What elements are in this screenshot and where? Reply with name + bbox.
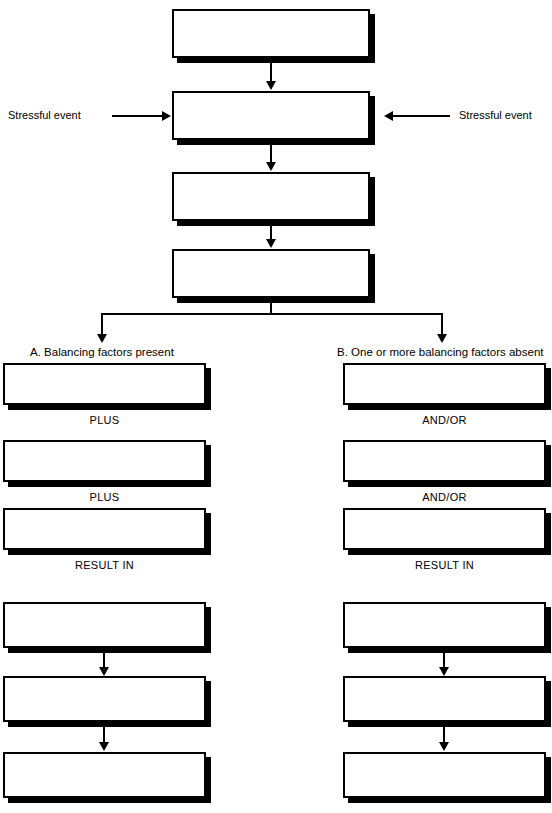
arrowhead-stressful-event-right <box>384 111 393 121</box>
connector-stressful-event-right <box>393 115 450 117</box>
arrowhead-spine-3-4 <box>266 239 276 248</box>
connector-branch-a-5-6 <box>103 727 105 743</box>
spine-box-4 <box>172 249 370 298</box>
branch-a-box-6 <box>3 752 206 798</box>
stressful-event-right-label: Stressful event <box>459 109 532 122</box>
arrowhead-branch-a-5-6 <box>99 742 109 751</box>
connector-branch-b-5-6 <box>443 727 445 743</box>
arrowhead-branch-b-4-5 <box>439 667 449 676</box>
arrowhead-branch-a-4-5 <box>99 667 109 676</box>
connector-branch-a-4-5 <box>103 653 105 668</box>
branch-a-box-4 <box>3 602 206 648</box>
branch-b-box-2 <box>343 440 546 482</box>
branch-b-box-3 <box>343 508 546 550</box>
connector-branch-b-4-5 <box>443 653 445 668</box>
branch-b-connector-1: AND/OR <box>343 414 546 427</box>
connector-stressful-event-left <box>112 115 163 117</box>
connector-spine-1-2 <box>270 63 272 82</box>
arrowhead-spine-2-3 <box>266 162 276 171</box>
branch-b-box-4 <box>343 602 546 648</box>
spine-box-1 <box>172 9 370 58</box>
arrowhead-branch-a <box>97 334 107 343</box>
branch-b-heading: B. One or more balancing factors absent <box>337 345 543 359</box>
branch-a-box-1 <box>3 363 206 405</box>
stressful-event-left-label: Stressful event <box>8 109 81 122</box>
branch-split-bar <box>101 313 442 315</box>
branch-b-box-1 <box>343 363 546 405</box>
arrowhead-branch-b <box>437 334 447 343</box>
branch-split-right-drop <box>441 313 443 336</box>
branch-a-box-2 <box>3 440 206 482</box>
branch-split-left-drop <box>101 313 103 336</box>
branch-a-heading: A. Balancing factors present <box>30 345 174 359</box>
branch-a-connector-3: RESULT IN <box>3 559 206 572</box>
branch-a-connector-1: PLUS <box>3 414 206 427</box>
arrowhead-branch-b-5-6 <box>439 742 449 751</box>
spine-box-3 <box>172 172 370 221</box>
arrowhead-stressful-event-left <box>162 111 171 121</box>
branch-a-box-3 <box>3 508 206 550</box>
arrowhead-spine-1-2 <box>266 81 276 90</box>
branch-a-box-5 <box>3 676 206 722</box>
connector-spine-3-4 <box>270 226 272 240</box>
branch-b-box-6 <box>343 752 546 798</box>
connector-spine-2-3 <box>270 145 272 163</box>
branch-a-connector-2: PLUS <box>3 491 206 504</box>
branch-b-connector-3: RESULT IN <box>343 559 546 572</box>
branch-b-box-5 <box>343 676 546 722</box>
flowchart-canvas: Stressful event Stressful event A. Balan… <box>0 0 552 813</box>
spine-box-2 <box>172 91 370 140</box>
branch-b-connector-2: AND/OR <box>343 491 546 504</box>
